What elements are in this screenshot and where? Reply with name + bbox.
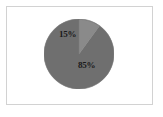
chart-canvas: 15% 85% [0, 0, 163, 117]
pie-plot-area: 15% 85% [0, 0, 163, 117]
pie-slice-small-label: 15% [59, 30, 76, 39]
pie-slice-large-label: 85% [78, 61, 95, 70]
pie-chart-graphic [44, 19, 114, 89]
